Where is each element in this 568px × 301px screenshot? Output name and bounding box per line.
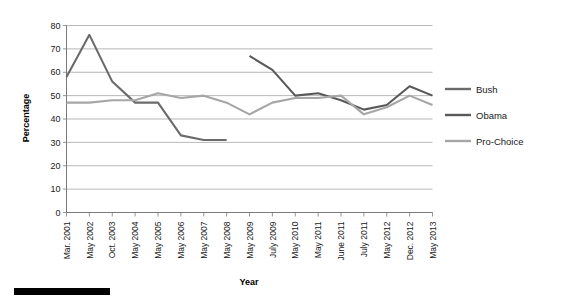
- chart-legend: BushObamaPro-Choice: [445, 84, 524, 147]
- x-axis-tick-label: May 2011: [313, 221, 323, 258]
- y-axis-tick-label: 80: [50, 21, 60, 31]
- line-chart: 01020304050607080 Mar. 2001May 2002Oct. …: [0, 0, 568, 301]
- x-axis-tick-label: May 2008: [222, 221, 232, 259]
- x-axis-tick-label: Dec. 2012: [405, 221, 415, 260]
- y-axis-tick-label: 0: [55, 208, 60, 218]
- gridlines: [63, 26, 433, 213]
- y-axis-tick-label: 60: [50, 67, 60, 77]
- y-axis-tick-label: 40: [50, 114, 60, 124]
- series-line-bush: [67, 35, 227, 140]
- x-axis-tick-label: May 2009: [245, 221, 255, 259]
- y-axis-tick-label: 20: [50, 161, 60, 171]
- legend-label-obama: Obama: [476, 110, 508, 121]
- x-axis-tick-label: May 2010: [290, 221, 300, 259]
- y-axis-title: Percentage: [21, 94, 31, 143]
- legend-label-bush: Bush: [476, 84, 498, 95]
- x-axis-tick-label: May 2012: [382, 221, 392, 259]
- footer-black-bar: [14, 288, 110, 295]
- legend-label-pro-choice: Pro-Choice: [476, 136, 524, 147]
- x-axis-tick-label: May 2004: [130, 221, 140, 259]
- x-axis-tick-labels: Mar. 2001May 2002Oct. 2003May 2004May 20…: [62, 221, 438, 260]
- y-axis-tick-labels: 01020304050607080: [50, 21, 60, 218]
- series-line-pro-choice: [67, 93, 433, 114]
- x-axis-tick-label: May 2002: [85, 221, 95, 259]
- x-axis-title: Year: [239, 277, 259, 287]
- x-axis-tick-label: July 2011: [359, 221, 369, 257]
- x-axis-tick-label: Oct. 2003: [107, 221, 117, 258]
- y-axis-tick-label: 70: [50, 44, 60, 54]
- x-axis-tick-label: Mar. 2001: [62, 221, 72, 259]
- x-axis-tickmarks: [67, 213, 433, 217]
- x-axis-tick-label: July 2009: [268, 221, 278, 258]
- y-axis-tick-label: 50: [50, 91, 60, 101]
- x-axis-tick-label: May 2013: [428, 221, 438, 259]
- y-axis-tick-label: 10: [50, 184, 60, 194]
- x-axis-tick-label: June 2011: [336, 221, 346, 260]
- data-series: [67, 35, 433, 140]
- x-axis-tick-label: May 2005: [153, 221, 163, 259]
- x-axis-tick-label: May 2006: [176, 221, 186, 259]
- y-axis-tick-label: 30: [50, 138, 60, 148]
- chart-container: 01020304050607080 Mar. 2001May 2002Oct. …: [0, 0, 568, 301]
- x-axis-tick-label: May 2007: [199, 221, 209, 259]
